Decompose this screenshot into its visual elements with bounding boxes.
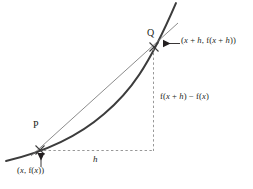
- rise-label: f(x + h) − f(x): [160, 92, 209, 101]
- run-label-text: h: [93, 154, 98, 164]
- secant-line: [31, 23, 178, 156]
- figure-canvas: [0, 0, 253, 189]
- point-q-label: Q: [147, 28, 154, 38]
- coord-p-label: (x, f(x)): [17, 166, 44, 175]
- run-label: h: [93, 155, 98, 164]
- coord-q-label: (x + h, f(x + h)): [181, 36, 236, 45]
- point-p-label: P: [33, 120, 39, 130]
- difference-quotient-figure: P Q (x + h, f(x + h)) f(x + h) − f(x) h …: [0, 0, 253, 189]
